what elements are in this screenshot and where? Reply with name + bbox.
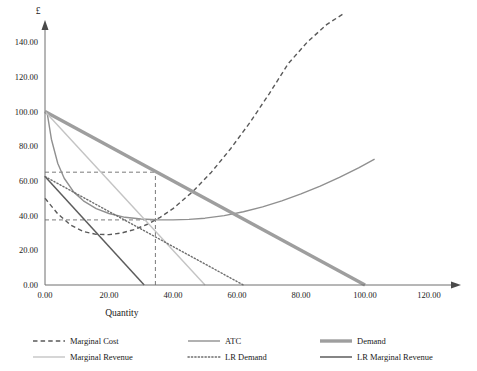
axis-titles-layer: £Quantity xyxy=(36,6,139,318)
y-tick-label: 120.00 xyxy=(15,72,38,82)
legend-label-lr-marginal-revenue: LR Marginal Revenue xyxy=(357,352,433,362)
x-tick-label: 20.00 xyxy=(99,290,118,300)
legend-label-demand: Demand xyxy=(357,336,387,346)
x-axis-arrow-icon xyxy=(451,282,461,289)
x-tick-label: 120.00 xyxy=(417,290,440,300)
y-tick-label: 80.00 xyxy=(19,141,38,151)
plot-area: 0.0020.0040.0060.0080.00100.00120.000.00… xyxy=(0,0,477,371)
data-series-layer xyxy=(45,14,375,285)
y-axis-title: £ xyxy=(36,6,41,16)
chart-legend: Marginal CostATCDemandMarginal RevenueLR… xyxy=(33,336,433,362)
legend-label-marginal-revenue: Marginal Revenue xyxy=(70,352,133,362)
guide-lines-layer xyxy=(45,172,155,285)
y-axis-arrow-icon xyxy=(42,20,49,30)
legend-label-marginal-cost: Marginal Cost xyxy=(70,336,119,346)
y-tick-label: 140.00 xyxy=(15,37,38,47)
series-line-demand xyxy=(45,111,365,285)
series-line-atc xyxy=(47,111,375,219)
economics-chart: 0.0020.0040.0060.0080.00100.00120.000.00… xyxy=(0,0,477,371)
axes-layer xyxy=(42,20,462,289)
y-tick-label: 40.00 xyxy=(19,211,38,221)
x-tick-label: 80.00 xyxy=(291,290,310,300)
y-tick-label: 0.00 xyxy=(23,280,38,290)
legend-label-atc: ATC xyxy=(225,336,241,346)
x-tick-label: 100.00 xyxy=(353,290,376,300)
tick-labels-layer: 0.0020.0040.0060.0080.00100.00120.000.00… xyxy=(15,37,441,300)
y-tick-label: 100.00 xyxy=(15,107,38,117)
x-tick-label: 60.00 xyxy=(227,290,246,300)
y-tick-label: 20.00 xyxy=(19,245,38,255)
x-axis-title: Quantity xyxy=(105,308,138,318)
x-tick-label: 0.00 xyxy=(38,290,53,300)
y-tick-label: 60.00 xyxy=(19,176,38,186)
series-line-lr-marginal-revenue xyxy=(45,177,144,285)
legend-label-lr-demand: LR Demand xyxy=(225,352,268,362)
x-tick-label: 40.00 xyxy=(163,290,182,300)
series-line-marginal-revenue xyxy=(45,111,205,285)
series-line-lr-demand xyxy=(45,177,243,285)
